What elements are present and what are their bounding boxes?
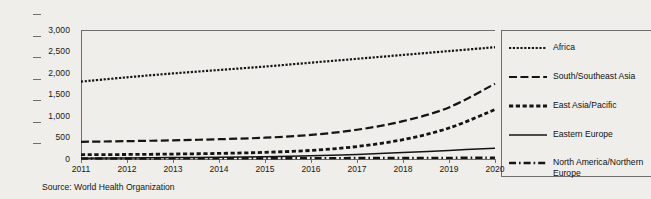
- line-chart-figure: 05001,0001,5002,0002,5003,000 2011201220…: [40, 16, 651, 199]
- series-line: [81, 84, 495, 142]
- x-axis-label: 2014: [198, 165, 240, 174]
- y-axis-label: 0: [37, 155, 70, 164]
- legend-item[interactable]: Eastern Europe: [509, 129, 613, 140]
- legend-item[interactable]: East Asia/Pacific: [509, 100, 617, 111]
- x-axis-tick: [403, 159, 404, 163]
- x-axis-label: 2018: [382, 165, 424, 174]
- series-line: [81, 110, 495, 155]
- x-axis-tick: [173, 159, 174, 163]
- y-axis-label: 500: [37, 133, 70, 142]
- legend-item[interactable]: South/Southeast Asia: [509, 71, 635, 82]
- y-axis-tick: [33, 122, 41, 123]
- y-axis-tick: [33, 57, 41, 58]
- x-axis-label: 2017: [336, 165, 378, 174]
- legend-item-label: North America/Northern Europe: [553, 157, 643, 178]
- x-axis-label: 2013: [152, 165, 194, 174]
- y-axis-tick: [33, 14, 41, 15]
- y-axis-tick: [33, 36, 41, 37]
- y-axis-label: 1,500: [37, 90, 70, 99]
- legend-item-label: Eastern Europe: [553, 129, 613, 140]
- legend-swatch-solid-icon: [509, 130, 547, 140]
- y-axis-label: 2,000: [37, 69, 70, 78]
- series-line: [81, 47, 495, 81]
- legend-item[interactable]: Africa: [509, 42, 575, 53]
- x-axis-label: 2016: [290, 165, 332, 174]
- source-note: Source: World Health Organization: [42, 182, 175, 192]
- x-axis-label: 2015: [244, 165, 286, 174]
- legend-item-label: East Asia/Pacific: [553, 100, 617, 111]
- y-axis-tick: [33, 100, 41, 101]
- x-axis-tick: [219, 159, 220, 163]
- x-axis-tick: [449, 159, 450, 163]
- x-axis-tick: [495, 159, 496, 163]
- legend-swatch-square-dashed-icon: [509, 101, 547, 111]
- x-axis-tick: [265, 159, 266, 163]
- y-axis-label: 3,000: [37, 26, 70, 35]
- y-axis-label: 2,500: [37, 47, 70, 56]
- legend-swatch-long-dashed-icon: [509, 72, 547, 82]
- series-line: [81, 158, 495, 159]
- y-axis-label: 1,000: [37, 112, 70, 121]
- plot-area: [81, 30, 495, 159]
- y-axis-tick: [33, 79, 41, 80]
- legend-swatch-fine-dotted-icon: [509, 43, 547, 53]
- legend-item-label: Africa: [553, 42, 575, 53]
- legend-item-label: South/Southeast Asia: [553, 71, 635, 82]
- x-axis-tick: [357, 159, 358, 163]
- x-axis-label: 2012: [106, 165, 148, 174]
- legend-item[interactable]: North America/Northern Europe: [509, 157, 643, 178]
- chart-legend: AfricaSouth/Southeast AsiaEast Asia/Paci…: [501, 30, 651, 176]
- x-axis-label: 2011: [60, 165, 102, 174]
- legend-swatch-dash-dot-icon: [509, 158, 547, 168]
- series-paths: [81, 30, 495, 159]
- x-axis-label: 2019: [428, 165, 470, 174]
- y-axis-tick: [33, 143, 41, 144]
- x-axis-tick: [311, 159, 312, 163]
